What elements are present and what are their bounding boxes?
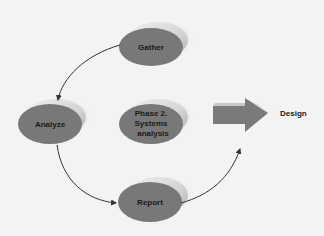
node-label-phase2-line1: Phase 2. <box>135 109 167 118</box>
node-label-phase2-line3: analysis <box>137 129 169 138</box>
design-label: Design <box>280 109 307 118</box>
connector-analyze-to-report <box>57 145 116 203</box>
node-label-report: Report <box>137 198 163 207</box>
node-analyze: Analyze <box>18 98 91 144</box>
node-phase2: Phase 2. Systems analysis <box>119 98 193 144</box>
node-label-analyze: Analyze <box>35 120 66 129</box>
node-gather: Gather <box>119 21 193 66</box>
connector-gather-to-analyze <box>58 45 120 100</box>
node-label-gather: Gather <box>138 43 164 52</box>
node-label-phase2-line2: Systems <box>135 119 168 128</box>
block-arrow-icon <box>213 98 270 132</box>
systems-analysis-diagram: Gather Phase 2. Systems analysis Analyze… <box>0 0 324 236</box>
node-report: Report <box>118 176 193 222</box>
